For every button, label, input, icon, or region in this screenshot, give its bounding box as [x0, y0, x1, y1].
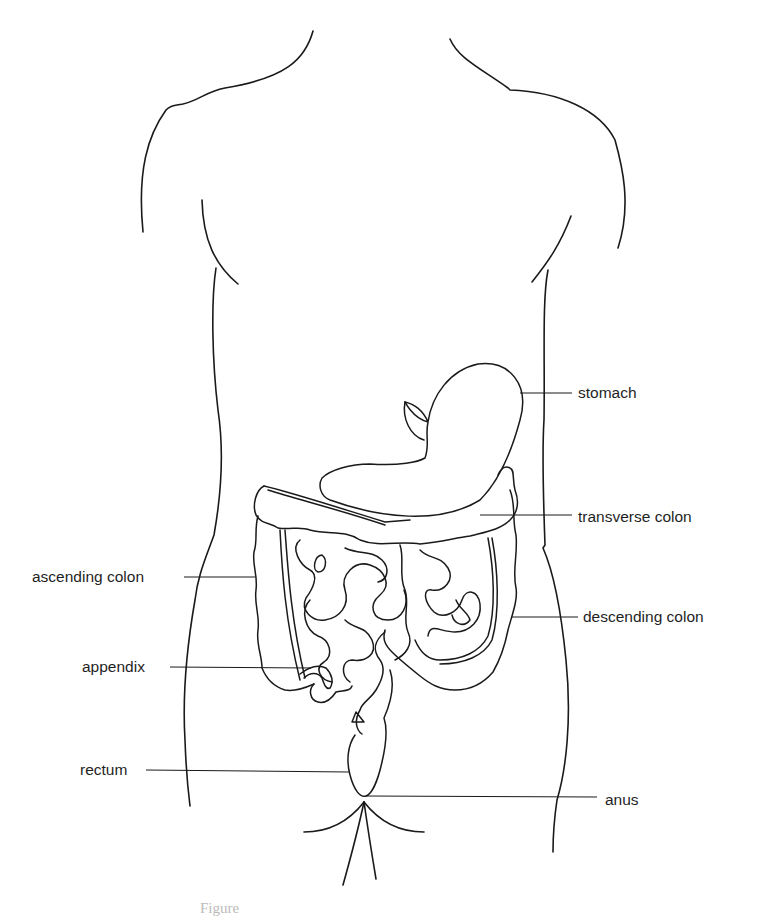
- label-anus: anus: [605, 791, 639, 809]
- stomach-fundus-tip: [404, 402, 424, 440]
- label-rectum: rectum: [80, 761, 127, 779]
- small-intestine-coil: [420, 550, 480, 636]
- small-intestine-coil: [345, 548, 387, 582]
- transverse-colon-organ: [254, 467, 517, 544]
- leader-rectum: [146, 770, 349, 772]
- small-intestine-coil: [315, 555, 326, 572]
- label-descending-colon: descending colon: [583, 608, 704, 626]
- leader-anus: [366, 796, 597, 797]
- transverse-colon-fold: [264, 486, 410, 522]
- right-groin-outline: [364, 802, 424, 832]
- small-intestine-organ: [296, 540, 480, 682]
- label-ascending-colon: ascending colon: [32, 568, 144, 586]
- label-stomach: stomach: [578, 384, 637, 402]
- small-intestine-coil: [395, 545, 410, 660]
- label-transverse-colon: transverse colon: [578, 508, 692, 526]
- left-shoulder-outline: [141, 31, 313, 232]
- right-torso-outline: [543, 270, 569, 852]
- sigmoid-fold: [352, 712, 364, 722]
- label-appendix: appendix: [82, 658, 145, 676]
- small-intestine-coil: [343, 620, 373, 682]
- stomach-organ: [320, 364, 523, 517]
- transverse-colon-fold-2: [268, 490, 385, 525]
- stomach-body: [320, 364, 523, 517]
- right-shoulder-outline: [450, 39, 625, 248]
- right-chest-outline: [532, 216, 571, 282]
- small-intestine-coil: [296, 540, 406, 620]
- leader-lines: [146, 393, 597, 797]
- rectum-outline: [348, 670, 392, 796]
- left-chest-outline: [202, 200, 238, 284]
- figure-caption: Figure: [200, 899, 239, 917]
- left-groin-outline: [304, 802, 364, 832]
- leader-appendix: [170, 667, 311, 668]
- descending-colon-inner-2: [440, 538, 497, 664]
- rectum-organ: [348, 632, 392, 796]
- descending-colon-inner: [415, 538, 493, 660]
- appendix-outline: [300, 666, 332, 688]
- transverse-colon-outline: [254, 467, 517, 544]
- left-torso-outline: [184, 268, 221, 806]
